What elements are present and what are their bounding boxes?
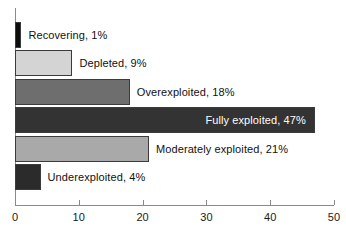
x-axis-tick (334, 200, 335, 205)
bar-value-label: Fully exploited, 47% (205, 114, 305, 126)
bar-value-label: Moderately exploited, 21% (149, 143, 288, 155)
bar[interactable] (15, 136, 149, 162)
bar-value-label: Overexploited, 18% (130, 86, 235, 98)
x-axis-line (15, 205, 334, 206)
bar[interactable] (15, 164, 41, 190)
bar-row[interactable]: Moderately exploited, 21% (15, 136, 334, 162)
bar[interactable]: Fully exploited, 47% (15, 107, 315, 133)
x-axis-tick-label: 0 (0, 211, 30, 223)
x-axis-tick (206, 200, 207, 205)
bar-row[interactable]: Overexploited, 18% (15, 79, 334, 105)
bar-row[interactable]: Recovering, 1% (15, 22, 334, 48)
bar-row[interactable]: Underexploited, 4% (15, 164, 334, 190)
bar-row[interactable]: Fully exploited, 47% (15, 107, 334, 133)
bar-value-label: Depleted, 9% (72, 57, 146, 69)
x-axis-tick-label: 50 (319, 211, 346, 223)
x-axis-tick-label: 30 (191, 211, 221, 223)
bar[interactable] (15, 50, 72, 76)
x-axis-tick-label: 40 (255, 211, 285, 223)
bar-value-label: Underexploited, 4% (41, 171, 146, 183)
x-axis-tick (15, 200, 16, 205)
x-axis-tick (143, 200, 144, 205)
plot-area: Recovering, 1%Depleted, 9%Overexploited,… (15, 8, 334, 205)
bar-row[interactable]: Depleted, 9% (15, 50, 334, 76)
x-axis-tick (270, 200, 271, 205)
bar-value-label: Recovering, 1% (21, 29, 107, 41)
x-axis-tick (79, 200, 80, 205)
bar[interactable] (15, 79, 130, 105)
x-axis-tick-label: 10 (64, 211, 94, 223)
x-axis-tick-label: 20 (128, 211, 158, 223)
bar-chart: Recovering, 1%Depleted, 9%Overexploited,… (0, 0, 346, 235)
